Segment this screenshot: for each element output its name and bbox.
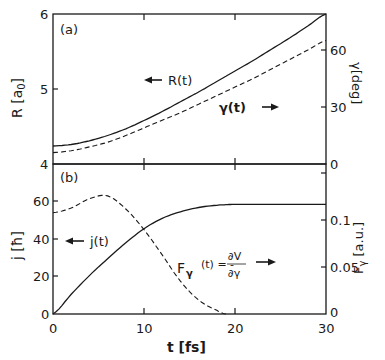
tick-x-30: 30 xyxy=(318,321,335,336)
panel-a-frame xyxy=(53,14,326,164)
svg-text:∂V: ∂V xyxy=(228,250,242,263)
panel-a-label: (a) xyxy=(60,22,78,37)
tick-a-left-4: 4 xyxy=(40,157,48,172)
tick-a-left-6: 6 xyxy=(40,7,48,22)
y-axis-label-a-right: γ[deg] xyxy=(349,62,364,104)
arrowhead-left-icon xyxy=(144,77,152,84)
tick-x-20: 20 xyxy=(227,321,244,336)
tick-b-left-20: 20 xyxy=(33,269,50,284)
y-ticks-a-right xyxy=(321,50,326,107)
y-axis-label-b-left: j [ħ] xyxy=(9,231,25,261)
tick-x-10: 10 xyxy=(136,321,153,336)
arrowhead-right-icon xyxy=(271,104,279,111)
tick-b-left-0: 0 xyxy=(41,307,49,322)
tick-x-0: 0 xyxy=(49,321,57,336)
tick-b-right-0: 0 xyxy=(330,305,338,320)
tick-b-left-40: 40 xyxy=(33,232,50,247)
svg-text:γ: γ xyxy=(186,268,193,279)
gamma-annotation: γ(t) xyxy=(219,100,279,115)
j-curve xyxy=(53,204,326,314)
f-annotation: F γ (t) = - ∂V ∂γ xyxy=(177,250,276,280)
arrowhead-right-icon xyxy=(268,259,276,266)
svg-text:γ[deg]: γ[deg] xyxy=(349,62,364,104)
svg-text:γ(t): γ(t) xyxy=(219,100,246,115)
svg-text:j(t): j(t) xyxy=(89,234,109,249)
svg-text:∂γ: ∂γ xyxy=(228,267,241,280)
panel-b-label: (b) xyxy=(60,170,78,185)
tick-a-right-30: 30 xyxy=(330,100,347,115)
svg-text:F: F xyxy=(177,260,185,276)
y-axis-label-a-left: R [a0] xyxy=(9,78,27,118)
y-ticks-b-right xyxy=(321,173,326,267)
tick-b-right-0.1: 0.1 xyxy=(330,213,351,228)
tick-a-right-60: 60 xyxy=(330,43,347,58)
svg-text:j [ħ]: j [ħ] xyxy=(9,231,25,261)
tick-a-right-0: 0 xyxy=(330,157,338,172)
svg-text:R(t): R(t) xyxy=(168,73,192,88)
tick-b-left-60: 60 xyxy=(33,194,50,209)
x-axis-label: t [fs] xyxy=(167,339,206,355)
j-annotation: j(t) xyxy=(65,234,109,249)
svg-text:R [a0]: R [a0] xyxy=(9,78,27,118)
f-gamma-curve xyxy=(53,195,226,314)
r-annotation: R(t) xyxy=(144,73,192,88)
tick-a-left-5: 5 xyxy=(40,82,48,97)
arrowhead-left-icon xyxy=(65,238,73,245)
figure: (a) (b) R(t) γ(t) j(t) F γ (t) = - ∂V ∂γ… xyxy=(0,0,385,360)
